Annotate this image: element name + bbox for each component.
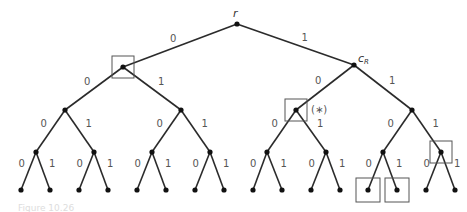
right-child-label: cR — [358, 52, 369, 66]
leaf-node — [423, 187, 428, 192]
leaf-node — [394, 187, 399, 192]
edge-label-0: 0 — [424, 158, 430, 169]
tree-edge — [181, 110, 210, 152]
internal-node — [33, 149, 38, 154]
edge-label-1: 1 — [86, 118, 92, 129]
leaf-node — [47, 187, 52, 192]
internal-node — [323, 149, 328, 154]
internal-node — [178, 107, 183, 112]
internal-node — [351, 62, 356, 67]
leaf-node — [163, 187, 168, 192]
edge-label-1: 1 — [281, 158, 287, 169]
tree-edge — [210, 152, 224, 190]
internal-node — [380, 149, 385, 154]
leaf-node — [308, 187, 313, 192]
edge-label-0: 0 — [84, 76, 90, 87]
leaf-node — [221, 187, 226, 192]
edge-label-1: 1 — [223, 158, 229, 169]
edge-label-1: 1 — [339, 158, 345, 169]
edge-label-0: 0 — [366, 158, 372, 169]
internal-node — [120, 64, 125, 69]
tree-edge — [94, 152, 108, 190]
edge-label-1: 1 — [389, 75, 395, 86]
leaf-node — [76, 187, 81, 192]
tree-edge — [441, 152, 455, 190]
edge-label-0: 0 — [170, 33, 176, 44]
edge-label-0: 0 — [77, 158, 83, 169]
tree-edge — [383, 110, 412, 152]
leaf-node — [192, 187, 197, 192]
edge-label-1: 1 — [107, 158, 113, 169]
internal-node — [62, 107, 67, 112]
figure-caption: Figure 10.26 — [18, 203, 74, 212]
edge-label-1: 1 — [302, 32, 308, 43]
tree-edge — [412, 110, 441, 152]
edge-label-0: 0 — [272, 118, 278, 129]
tree-edge — [267, 110, 296, 152]
tree-edge — [65, 67, 123, 110]
tree-nodes — [18, 21, 457, 192]
edge-label-1: 1 — [165, 158, 171, 169]
tree-edge — [152, 152, 166, 190]
edge-label-0: 0 — [157, 118, 163, 129]
edge-label-1: 1 — [454, 158, 460, 169]
tree-edge — [296, 110, 326, 152]
internal-node — [293, 107, 298, 112]
tree-edge — [354, 65, 412, 110]
leaf-node — [452, 187, 457, 192]
edge-label-1: 1 — [317, 118, 323, 129]
edge-label-0: 0 — [250, 158, 256, 169]
edge-label-0: 0 — [315, 75, 321, 86]
leaf-node — [250, 187, 255, 192]
tree-edge — [152, 110, 181, 152]
internal-node — [438, 149, 443, 154]
root-node — [234, 21, 239, 26]
internal-node — [149, 149, 154, 154]
leaf-node — [134, 187, 139, 192]
edge-label-0: 0 — [41, 118, 47, 129]
root-label: r — [233, 7, 239, 20]
edge-label-0: 0 — [193, 158, 199, 169]
edge-label-1: 1 — [158, 76, 164, 87]
tree-edge — [326, 152, 340, 190]
leaf-node — [365, 187, 370, 192]
edge-label-0: 0 — [19, 158, 25, 169]
edge-label-0: 0 — [135, 158, 141, 169]
edge-label-1: 1 — [49, 158, 55, 169]
leaf-node — [279, 187, 284, 192]
internal-node — [264, 149, 269, 154]
tree-edge — [123, 24, 237, 67]
internal-node — [91, 149, 96, 154]
tree-edge — [123, 67, 181, 110]
internal-node — [409, 107, 414, 112]
leaf-node — [18, 187, 23, 192]
edge-labels: 010101010101010101010101010101 — [19, 32, 461, 170]
tree-edge — [237, 24, 354, 65]
edge-label-1: 1 — [433, 118, 439, 129]
edge-label-0: 0 — [388, 118, 394, 129]
tree-edge — [36, 110, 65, 152]
tree-edge — [65, 110, 94, 152]
edge-label-1: 1 — [202, 118, 208, 129]
tree-edge — [36, 152, 50, 190]
tree-edges — [21, 24, 455, 190]
internal-node — [207, 149, 212, 154]
leaf-node — [105, 187, 110, 192]
star-marker-label: (∗) — [311, 104, 327, 115]
leaf-node — [337, 187, 342, 192]
edge-label-0: 0 — [309, 158, 315, 169]
edge-label-1: 1 — [396, 158, 402, 169]
binary-tree-diagram: 010101010101010101010101010101 r cR (∗) … — [0, 0, 467, 212]
